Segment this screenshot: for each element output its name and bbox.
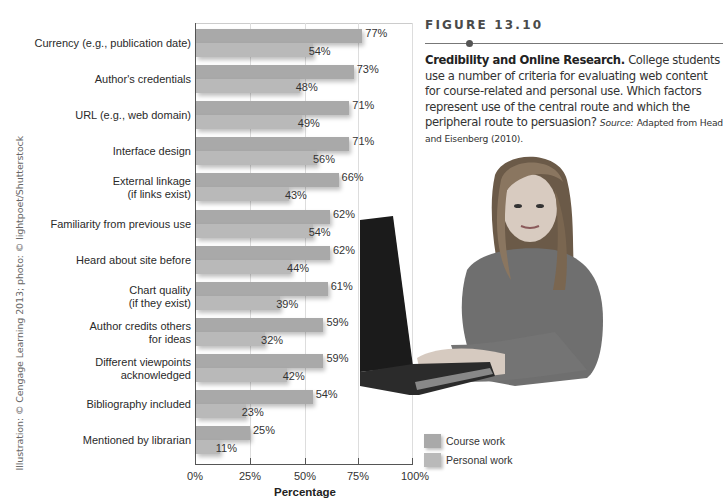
tick-label: 0% (175, 470, 215, 482)
figure-label: FIGURE 13.10 (425, 18, 543, 32)
row-label: Interface design (113, 145, 191, 158)
bar-personal-work (196, 296, 280, 310)
value-label-course: 71% (352, 99, 374, 111)
row-label-line: Author credits others (90, 320, 192, 333)
bar-course-work (196, 282, 328, 296)
value-label-personal: 43% (285, 189, 307, 201)
legend-label-personal: Personal work (446, 454, 513, 466)
value-label-course: 59% (326, 352, 348, 364)
value-label-personal: 42% (283, 370, 305, 382)
value-label-course: 61% (331, 280, 353, 292)
caption-source-label: Source: (600, 117, 633, 128)
value-label-personal: 44% (287, 262, 309, 274)
x-axis-title: Percentage (260, 486, 350, 498)
value-label-course: 62% (333, 244, 355, 256)
row-label: Bibliography included (86, 398, 191, 411)
row-label-line: (if links exist) (113, 188, 191, 201)
tick-label: 75% (338, 470, 378, 482)
bar-personal-work (196, 404, 246, 418)
row-label-line: External linkage (113, 175, 191, 188)
tick-25 (250, 458, 251, 465)
value-label-course: 71% (352, 135, 374, 147)
bar-personal-work (196, 79, 300, 93)
row-label-line: Familiarity from previous use (50, 218, 191, 231)
row-label-line: Author's credentials (95, 73, 191, 86)
tick-100 (412, 458, 413, 465)
row-label: Chart quality(if they exist) (129, 284, 191, 310)
tick-0 (195, 458, 196, 465)
row-label-line: Interface design (113, 145, 191, 158)
row-label-line: for ideas (90, 333, 192, 346)
bar-course-work (196, 426, 250, 440)
bar-course-work (196, 390, 313, 404)
bar-course-work (196, 246, 330, 260)
student-laptop-photo (355, 150, 630, 395)
tick-label: 50% (285, 470, 325, 482)
row-label: External linkage(if links exist) (113, 175, 191, 201)
row-label-line: Different viewpoints (95, 356, 191, 369)
bar-personal-work (196, 332, 265, 346)
figure-caption: Credibility and Online Research. College… (425, 53, 723, 147)
tick-50 (305, 458, 306, 465)
row-label-line: Heard about site before (76, 254, 191, 267)
value-label-personal: 48% (296, 81, 318, 93)
row-label: Different viewpointsacknowledged (95, 356, 191, 382)
legend-label-course: Course work (446, 435, 505, 447)
value-label-course: 73% (357, 63, 379, 75)
row-label-line: Bibliography included (86, 398, 191, 411)
value-label-personal: 54% (309, 45, 331, 57)
bar-course-work (196, 354, 323, 368)
bar-course-work (196, 101, 349, 115)
row-label: URL (e.g., web domain) (75, 109, 191, 122)
row-label: Mentioned by librarian (83, 434, 191, 447)
value-label-personal: 23% (242, 406, 264, 418)
bar-personal-work (196, 151, 317, 165)
row-label: Currency (e.g., publication date) (34, 37, 191, 50)
row-label-line: Chart quality (129, 284, 191, 297)
row-label-line: acknowledged (95, 369, 191, 382)
value-label-personal: 54% (309, 226, 331, 238)
row-label-line: Mentioned by librarian (83, 434, 191, 447)
value-label-personal: 49% (298, 117, 320, 129)
bar-course-work (196, 173, 339, 187)
caption-title: Credibility and Online Research. (425, 53, 625, 67)
value-label-personal: 56% (313, 153, 335, 165)
value-label-course: 25% (253, 424, 275, 436)
value-label-personal: 32% (261, 334, 283, 346)
x-axis (195, 464, 412, 465)
row-label: Familiarity from previous use (50, 218, 191, 231)
image-credit: Illustration: © Cengage Learning 2013; p… (14, 231, 25, 471)
tick-75 (358, 458, 359, 465)
bar-course-work (196, 210, 330, 224)
value-label-course: 54% (316, 388, 338, 400)
bar-personal-work (196, 187, 289, 201)
bar-course-work (196, 137, 349, 151)
value-label-course: 77% (365, 27, 387, 39)
legend-swatch-personal (424, 453, 441, 467)
value-label-course: 62% (333, 208, 355, 220)
value-label-personal: 11% (216, 442, 237, 454)
row-label: Heard about site before (76, 254, 191, 267)
bar-personal-work (196, 115, 302, 129)
bar-course-work (196, 318, 323, 332)
bar-course-work (196, 29, 362, 43)
figure-rule-dot (466, 40, 473, 47)
bar-course-work (196, 65, 354, 79)
tick-label: 100% (395, 470, 435, 482)
row-label: Author credits othersfor ideas (90, 320, 192, 346)
tick-label: 25% (230, 470, 270, 482)
bar-personal-work (196, 260, 291, 274)
bar-personal-work (196, 368, 287, 382)
value-label-personal: 39% (276, 298, 298, 310)
value-label-course: 59% (326, 316, 348, 328)
row-label: Author's credentials (95, 73, 191, 86)
bar-personal-work (196, 224, 313, 238)
bar-personal-work (196, 43, 313, 57)
legend-swatch-course (424, 434, 441, 448)
row-label-line: (if they exist) (129, 297, 191, 310)
row-label-line: URL (e.g., web domain) (75, 109, 191, 122)
row-label-line: Currency (e.g., publication date) (34, 37, 191, 50)
